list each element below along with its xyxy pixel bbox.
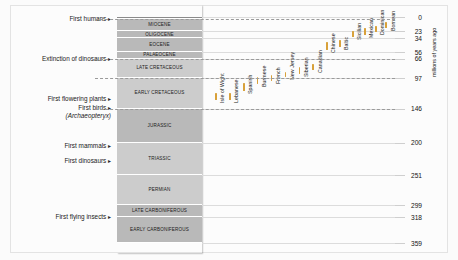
axis-tick (395, 59, 405, 60)
gridline (202, 143, 395, 144)
amber-deposit-bar (299, 67, 301, 73)
amber-deposit-bar (312, 64, 314, 70)
period-block: LATE CARBONIFEROUS (117, 205, 202, 217)
period-label: PALAEOCENE (143, 52, 175, 57)
amber-deposit-bar (243, 83, 245, 91)
period-label: TRIASSIC (148, 156, 170, 161)
period-block: EOCENE (117, 38, 202, 52)
amber-deposit-bar (385, 22, 387, 28)
event-label-text: First flying insects (56, 213, 107, 220)
amber-deposit-label: Baltic (343, 37, 349, 50)
event-arrow-icon: ▸ (106, 96, 111, 102)
period-block: JURASSIC (117, 109, 202, 143)
periods-column: MIOCENEOLIGOCENEEOCENEPALAEOCENELATE CRE… (117, 5, 202, 253)
event-label-text: First dinosaurs (64, 157, 106, 164)
amber-deposit-bar (215, 93, 217, 101)
axis-tick (395, 205, 405, 206)
axis-tick-label: 299 (405, 202, 422, 209)
axis-title: millions of years ago (431, 28, 437, 77)
amber-deposit-label: French (275, 67, 281, 84)
period-stack: MIOCENEOLIGOCENEEOCENEPALAEOCENELATE CRE… (117, 5, 202, 253)
axis-tick-label: 66 (405, 55, 422, 62)
amber-deposit-label: Mexican (368, 18, 374, 38)
period-label: MIOCENE (148, 22, 171, 27)
event-arrow-icon: ▸ (106, 143, 111, 149)
gridline (202, 217, 395, 218)
time-axis: millions of years ago 023345666971462002… (395, 5, 450, 253)
period-label: JURASSIC (148, 123, 172, 128)
axis-tick (395, 109, 405, 110)
axis-tick-label: 0 (405, 14, 422, 21)
axis-tick-label: 34 (405, 35, 422, 42)
axis-tick (395, 38, 405, 39)
period-label: LATE CARBONIFEROUS (132, 208, 187, 213)
amber-deposit-bar (364, 28, 366, 34)
axis-tick (395, 175, 405, 176)
period-label: EOCENE (149, 42, 169, 47)
event-guide-line (95, 59, 395, 60)
event-label-text: First mammals (64, 142, 106, 149)
axis-tick-label: 146 (405, 105, 422, 112)
axis-tick (395, 31, 405, 32)
axis-tick (395, 17, 405, 18)
gridline (202, 243, 395, 244)
event-label: First flying insects ▸ (56, 213, 111, 221)
gridline (202, 205, 395, 206)
period-block: OLIGOCENE (117, 31, 202, 38)
event-arrow-icon: ▸ (106, 214, 111, 220)
period-block: EARLY CRETACEOUS (117, 78, 202, 109)
amber-deposit-bar (326, 42, 328, 50)
event-label-italic: (Archaeopteryx) (66, 112, 111, 120)
period-label: LATE CRETACEOUS (136, 65, 182, 70)
gridline (202, 38, 395, 39)
axis-tick-label: 251 (405, 172, 422, 179)
amber-deposit-label: Siberian (303, 57, 309, 77)
axis-tick (395, 243, 405, 244)
event-label: First dinosaurs ▸ (64, 157, 111, 165)
events-column: First humans ▸Extinction of dinosaurs ▸F… (12, 5, 117, 253)
amber-deposit-label: Lebanese (233, 80, 239, 104)
period-block: TRIASSIC (117, 143, 202, 175)
gridline (202, 31, 395, 32)
amber-deposit-bar (375, 26, 377, 32)
event-label-text: First flowering plants (48, 95, 107, 102)
amber-deposit-bar (285, 72, 287, 77)
event-label: First flowering plants ▸ (48, 95, 111, 103)
geological-timescale-figure: First humans ▸Extinction of dinosaurs ▸F… (0, 0, 458, 260)
period-label: PERMIAN (149, 187, 171, 192)
gridline (202, 52, 395, 53)
amber-deposit-bar (352, 31, 354, 37)
axis-tick-label: 318 (405, 214, 422, 221)
period-block: EARLY CARBONIFEROUS (117, 217, 202, 243)
period-label: EARLY CARBONIFEROUS (130, 227, 189, 232)
event-guide-line (95, 78, 395, 79)
axis-tick (395, 217, 405, 218)
axis-tick-label: 200 (405, 139, 422, 146)
amber-deposit-label: Canadian (317, 50, 323, 73)
amber-deposit-bar (229, 93, 231, 101)
period-block: MIOCENE (117, 19, 202, 32)
period-label: EARLY CRETACEOUS (135, 90, 185, 95)
event-arrow-icon: ▸ (106, 158, 111, 164)
period-label: OLIGOCENE (145, 32, 174, 37)
axis-tick-label: 97 (405, 75, 422, 82)
axis-tick (395, 52, 405, 53)
axis-tick-label: 359 (405, 240, 422, 247)
period-block: PERMIAN (117, 175, 202, 205)
axis-tick (395, 78, 405, 79)
amber-deposit-label: Sicilian (356, 23, 362, 40)
amber-deposit-label: Burmese (261, 65, 267, 86)
amber-deposit-label: Chinese (330, 33, 336, 53)
gridline (202, 175, 395, 176)
amber-deposit-label: New Jersey (289, 52, 295, 80)
amber-deposit-bar (339, 40, 341, 48)
period-block: LATE CRETACEOUS (117, 59, 202, 79)
axis-tick (395, 143, 405, 144)
event-label: First mammals ▸ (64, 142, 111, 150)
amber-plot-area: Isle of WightLebaneseSpanishBurmeseFrenc… (202, 5, 395, 253)
event-guide-line (95, 109, 395, 110)
event-guide-line (95, 19, 395, 20)
event-label: First birds ▸(Archaeopteryx) (66, 104, 111, 120)
